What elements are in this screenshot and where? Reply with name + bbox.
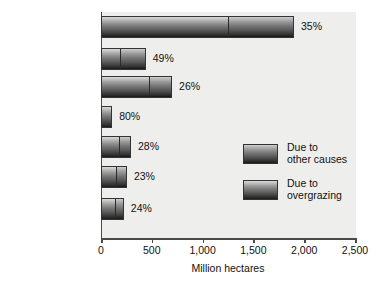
bar-segment-other-causes — [120, 49, 145, 69]
stacked-bar — [101, 166, 127, 188]
stacked-bar — [101, 76, 172, 98]
bar-segment-other-causes — [119, 137, 130, 157]
bar-segment-other-causes — [116, 167, 126, 187]
bar-value-label: 28% — [138, 140, 159, 152]
stacked-bar — [101, 136, 131, 158]
x-tick-label: 0 — [98, 244, 104, 256]
x-tick — [203, 238, 205, 243]
bar-value-label: 49% — [153, 52, 174, 64]
legend-item-overgrazing: Due to overgrazing — [243, 178, 347, 201]
other-causes-swatch — [243, 144, 278, 164]
x-axis-line — [101, 238, 356, 240]
stacked-bar — [101, 48, 146, 70]
x-tick-label: 1,000 — [189, 244, 215, 256]
bar-segment-other-causes — [115, 199, 123, 219]
x-tick — [304, 238, 306, 243]
bar-value-label: 26% — [179, 80, 200, 92]
overgrazing-swatch — [243, 180, 278, 200]
bar-segment-overgrazing — [102, 137, 119, 157]
legend-label-overgrazing: Due to overgrazing — [287, 178, 342, 201]
bar-value-label: 23% — [134, 170, 155, 182]
bar-segment-overgrazing — [102, 77, 149, 97]
bar-segment-overgrazing — [102, 49, 120, 69]
x-tick-label: 2,000 — [291, 244, 317, 256]
legend-label-other-causes: Due to other causes — [287, 142, 347, 165]
x-tick — [253, 238, 255, 243]
x-tick-label: 1,500 — [240, 244, 266, 256]
legend: Due to other causes Due to overgrazing — [243, 142, 347, 214]
bar-segment-other-causes — [228, 17, 293, 37]
bar-segment-overgrazing — [102, 107, 111, 127]
bar-value-label: 24% — [131, 202, 152, 214]
x-tick-label: 500 — [143, 244, 161, 256]
bar-value-label: 80% — [119, 110, 140, 122]
bar-value-label: 35% — [301, 20, 322, 32]
x-tick — [152, 238, 154, 243]
bar-segment-overgrazing — [102, 199, 115, 219]
stacked-bar — [101, 106, 112, 128]
legend-item-other-causes: Due to other causes — [243, 142, 347, 165]
bar-segment-overgrazing — [102, 17, 228, 37]
bar-segment-overgrazing — [102, 167, 116, 187]
stacked-bar — [101, 16, 294, 38]
stacked-bar — [101, 198, 124, 220]
x-tick — [101, 238, 103, 243]
x-tick-label: 2,500 — [342, 244, 368, 256]
bar-chart: World35%Africa49%Asia26%Oceania80%South … — [0, 0, 378, 284]
x-axis-label: Million hectares — [101, 262, 355, 274]
bar-segment-other-causes — [149, 77, 171, 97]
x-tick — [355, 238, 357, 243]
